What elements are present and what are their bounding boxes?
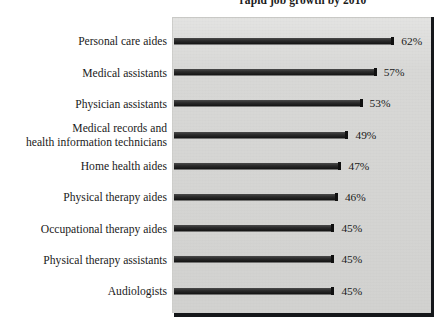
bar-end-cap <box>331 255 334 263</box>
chart-page: rapid job growth by 2010 Personal care a… <box>0 0 448 333</box>
category-label: Occupational therapy aides <box>0 223 167 236</box>
bar <box>174 194 336 200</box>
bar-end-cap <box>360 99 363 107</box>
bar-end-cap <box>338 162 341 170</box>
category-label-line: Medical assistants <box>0 67 167 80</box>
bar-end-cap <box>331 287 334 295</box>
category-label: Physical therapy assistants <box>0 254 167 267</box>
bar-end-cap <box>331 224 334 232</box>
category-label: Home health aides <box>0 160 167 173</box>
value-label: 45% <box>341 222 362 234</box>
bar <box>174 163 339 169</box>
category-label-line: Home health aides <box>0 160 167 173</box>
category-label: Medical assistants <box>0 67 167 80</box>
value-label: 53% <box>370 97 391 109</box>
category-label-line: Physician assistants <box>0 98 167 111</box>
bar-end-cap <box>391 37 394 45</box>
category-label-line: health information technicians <box>0 136 167 149</box>
chart-title: rapid job growth by 2010 <box>172 0 434 6</box>
category-label-line: Physical therapy assistants <box>0 254 167 267</box>
bar <box>174 225 332 231</box>
category-label-line: Personal care aides <box>0 35 167 48</box>
bar-end-cap <box>345 131 348 139</box>
bar <box>174 38 392 44</box>
category-label-line: Physical therapy aides <box>0 191 167 204</box>
value-label: 45% <box>341 285 362 297</box>
value-label: 47% <box>348 160 369 172</box>
category-label: Audiologists <box>0 285 167 298</box>
category-label: Physician assistants <box>0 98 167 111</box>
category-label: Personal care aides <box>0 35 167 48</box>
bar <box>174 132 346 138</box>
bar <box>174 288 332 294</box>
value-label: 46% <box>345 191 366 203</box>
value-label: 62% <box>401 35 422 47</box>
category-label: Physical therapy aides <box>0 191 167 204</box>
category-label: Medical records andhealth information te… <box>0 122 167 149</box>
value-label: 45% <box>341 253 362 265</box>
bar <box>174 256 332 262</box>
category-label-line: Audiologists <box>0 285 167 298</box>
value-label: 49% <box>355 129 376 141</box>
bar <box>174 69 375 75</box>
category-label-line: Medical records and <box>0 122 167 135</box>
bar <box>174 100 361 106</box>
bar-end-cap <box>374 68 377 76</box>
value-label: 57% <box>384 66 405 78</box>
category-label-line: Occupational therapy aides <box>0 223 167 236</box>
bar-end-cap <box>335 193 338 201</box>
